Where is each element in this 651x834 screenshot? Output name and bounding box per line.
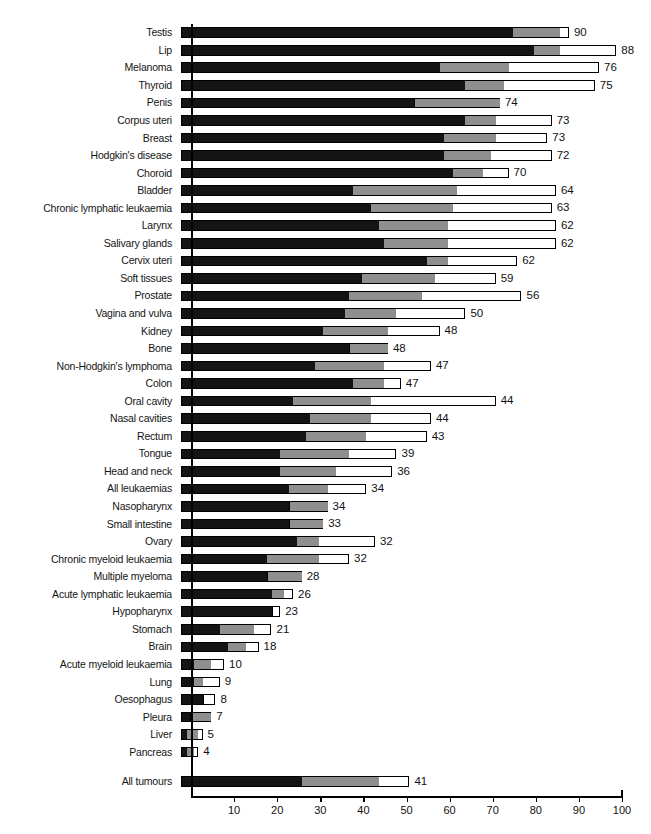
bar-segment-mid (228, 642, 245, 653)
bar-segment-light (388, 326, 440, 337)
category-label: Vagina and vulva (0, 308, 181, 319)
bar-segment-dark (181, 571, 267, 582)
bar-track: 21 (181, 621, 651, 639)
bar-track: 73 (181, 112, 651, 130)
category-label: Acute myeloid leukaemia (0, 659, 181, 670)
chart-row: Pancreas4 (0, 743, 651, 761)
stacked-bar (181, 256, 517, 267)
stacked-bar (181, 413, 431, 424)
bar-segment-dark (181, 712, 190, 723)
bar-segment-dark (181, 27, 513, 38)
bar-segment-mid (194, 677, 203, 688)
bar-segment-light (379, 776, 409, 787)
stacked-bar (181, 62, 599, 73)
bar-segment-light (496, 115, 552, 126)
bar-segment-mid (302, 776, 380, 787)
bar-value-label: 9 (225, 674, 231, 689)
category-label: Kidney (0, 326, 181, 337)
category-label: Tongue (0, 448, 181, 459)
bar-segment-light (453, 203, 552, 214)
category-label: Brain (0, 641, 181, 652)
category-label: All leukaemias (0, 483, 181, 494)
bar-segment-light (371, 396, 496, 407)
bar-track: 74 (181, 94, 651, 112)
bar-segment-dark (181, 431, 306, 442)
chart-row: Lung9 (0, 673, 651, 691)
bar-segment-dark (181, 98, 414, 109)
stacked-bar (181, 554, 349, 565)
bar-segment-dark (181, 326, 323, 337)
bar-segment-light (384, 378, 401, 389)
bar-segment-mid (349, 343, 388, 354)
bar-segment-dark (181, 449, 280, 460)
chart-row: Prostate56 (0, 287, 651, 305)
bar-track: 32 (181, 533, 651, 551)
bar-segment-dark (181, 220, 379, 231)
bar-segment-mid (315, 361, 384, 372)
bar-segment-light (246, 642, 259, 653)
chart-row: Stomach21 (0, 621, 651, 639)
bar-track: 23 (181, 603, 651, 621)
bar-segment-dark (181, 203, 371, 214)
stacked-bar (181, 396, 496, 407)
x-axis: 102030405060708090100 (0, 796, 651, 834)
bar-segment-mid (280, 449, 349, 460)
category-label: Colon (0, 378, 181, 389)
bar-track: 34 (181, 498, 651, 516)
bar-segment-light (448, 256, 517, 267)
chart-row: Hodgkin's disease72 (0, 147, 651, 165)
axis-tick-label: 70 (473, 804, 513, 817)
bar-value-label: 88 (621, 43, 634, 58)
chart-row: Acute myeloid leukaemia10 (0, 656, 651, 674)
bar-value-label: 32 (380, 534, 393, 549)
bar-segment-mid (440, 62, 509, 73)
bar-segment-dark (181, 776, 302, 787)
category-label: Oral cavity (0, 396, 181, 407)
bar-segment-mid (289, 501, 328, 512)
bar-value-label: 62 (522, 253, 535, 268)
stacked-bar (181, 747, 198, 758)
bar-track: 43 (181, 428, 651, 446)
bar-value-label: 50 (470, 306, 483, 321)
bar-segment-mid (444, 150, 491, 161)
stacked-bar (181, 273, 496, 284)
chart-row: Ovary32 (0, 533, 651, 551)
stacked-bar (181, 776, 409, 787)
axis-tick-label: 80 (516, 804, 556, 817)
bar-segment-light (384, 361, 431, 372)
category-label: Lung (0, 677, 181, 688)
bar-segment-mid (310, 413, 370, 424)
bar-value-label: 28 (307, 569, 320, 584)
bar-segment-mid (190, 712, 212, 723)
bar-segment-mid (534, 45, 560, 56)
axis-tick-label: 50 (387, 804, 427, 817)
category-label: Head and neck (0, 466, 181, 477)
chart-row: Salivary glands62 (0, 235, 651, 253)
bar-track: 62 (181, 217, 651, 235)
chart-row: Small intestine33 (0, 515, 651, 533)
bar-track: 9 (181, 673, 651, 691)
category-label: Larynx (0, 220, 181, 231)
bar-track: 90 (181, 24, 651, 42)
stacked-bar (181, 98, 500, 109)
axis-tick (450, 796, 451, 802)
bar-segment-mid (323, 326, 388, 337)
bar-segment-dark (181, 396, 293, 407)
bar-segment-light (319, 536, 375, 547)
bar-value-label: 43 (432, 429, 445, 444)
bar-value-label: 34 (333, 499, 346, 514)
category-label: Bladder (0, 185, 181, 196)
category-label: Hodgkin's disease (0, 150, 181, 161)
category-label: Ovary (0, 536, 181, 547)
chart-row: Oesophagus8 (0, 691, 651, 709)
bar-segment-light (198, 729, 202, 740)
bar-value-label: 70 (514, 165, 527, 180)
bar-segment-dark (181, 115, 465, 126)
bar-segment-mid (267, 571, 301, 582)
bar-segment-mid (293, 396, 371, 407)
stacked-bar (181, 220, 556, 231)
axis-tick-label: 90 (559, 804, 599, 817)
bar-track: 5 (181, 726, 651, 744)
bar-segment-mid (272, 589, 285, 600)
bar-track: 48 (181, 322, 651, 340)
